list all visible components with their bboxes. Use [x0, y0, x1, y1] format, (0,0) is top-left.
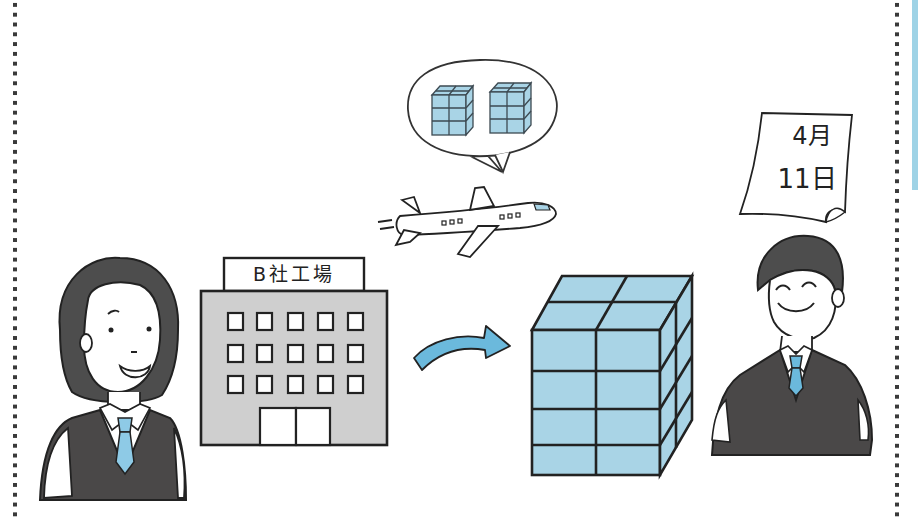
factory-sign-label: B社工場 — [224, 259, 364, 286]
cargo-box-stack-icon — [532, 276, 692, 475]
scene-drawing — [0, 0, 918, 521]
calendar-day-label: 11日 — [772, 158, 842, 195]
small-box-stack-1-icon — [432, 86, 473, 135]
small-box-stack-2-icon — [490, 83, 531, 133]
factory-door — [260, 408, 330, 445]
woman-office-worker — [40, 258, 186, 500]
speech-bubble — [408, 60, 557, 172]
airplane-icon — [378, 187, 556, 257]
curved-arrow-icon — [414, 326, 510, 370]
factory-building-icon — [201, 258, 387, 445]
man-office-worker — [712, 236, 872, 455]
illustration-stage: B社工場 4月 11日 — [0, 0, 918, 521]
calendar-month-label: 4月 — [782, 116, 842, 151]
